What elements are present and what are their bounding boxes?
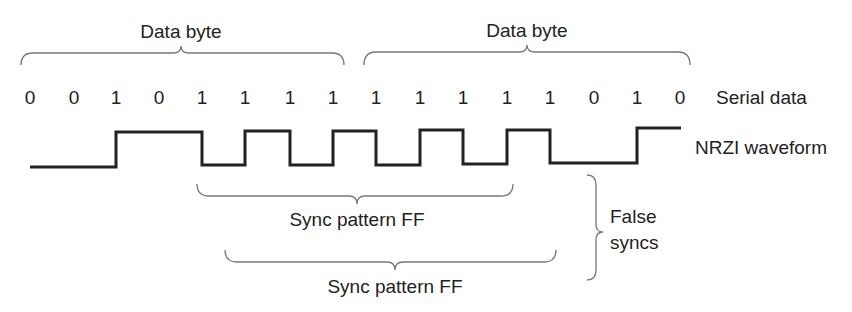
bit-3: 0 <box>154 87 165 108</box>
data-byte-label-2: Data byte <box>486 20 567 41</box>
sync-pattern-label-2: Sync pattern FF <box>327 276 462 297</box>
nrzi-diagram: Data byte Data byte 0 0 1 0 1 1 1 1 1 1 … <box>0 0 852 312</box>
bit-8: 1 <box>371 87 382 108</box>
sync-pattern-brace-2 <box>225 250 556 270</box>
sync-pattern-brace-1 <box>197 184 513 204</box>
bit-14: 1 <box>632 87 643 108</box>
bit-4: 1 <box>197 87 208 108</box>
false-syncs-label-line1: False <box>610 206 656 227</box>
data-byte-label-1: Data byte <box>140 21 221 42</box>
false-syncs-brace <box>587 175 603 280</box>
bit-11: 1 <box>502 87 513 108</box>
bit-0: 0 <box>25 87 36 108</box>
serial-bits: 0 0 1 0 1 1 1 1 1 1 1 1 1 0 1 0 <box>25 87 686 108</box>
bit-6: 1 <box>285 87 296 108</box>
data-byte-brace-2 <box>364 45 690 65</box>
nrzi-waveform-label: NRZI waveform <box>695 137 827 158</box>
nrzi-waveform <box>30 128 681 167</box>
bit-5: 1 <box>240 87 251 108</box>
bit-7: 1 <box>328 87 339 108</box>
false-syncs-label-line2: syncs <box>610 232 659 253</box>
bit-15: 0 <box>675 87 686 108</box>
sync-pattern-label-1: Sync pattern FF <box>289 209 424 230</box>
data-byte-brace-1 <box>21 46 344 65</box>
bit-9: 1 <box>415 87 426 108</box>
bit-2: 1 <box>111 87 122 108</box>
bit-10: 1 <box>458 87 469 108</box>
serial-data-label: Serial data <box>716 87 807 108</box>
bit-13: 0 <box>589 87 600 108</box>
bit-12: 1 <box>545 87 556 108</box>
bit-1: 0 <box>69 87 80 108</box>
